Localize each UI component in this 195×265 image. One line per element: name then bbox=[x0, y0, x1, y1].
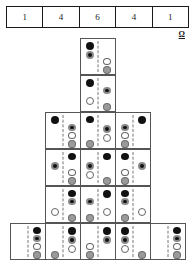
coefficient-cell-0: 1 bbox=[7, 7, 43, 27]
dot-solid bbox=[86, 116, 94, 123]
domino-tile[interactable] bbox=[80, 75, 116, 112]
tile-divider bbox=[133, 115, 134, 146]
dot-solid bbox=[86, 42, 94, 50]
dot-slot-empty bbox=[86, 132, 94, 139]
domino-tile[interactable] bbox=[80, 223, 116, 260]
domino-tile[interactable] bbox=[115, 112, 151, 149]
tile-half-left bbox=[81, 113, 98, 148]
dot-solid bbox=[68, 153, 76, 160]
dot-solid bbox=[121, 227, 129, 235]
dot-slot-empty bbox=[138, 227, 146, 234]
tile-half-left bbox=[81, 187, 98, 222]
dot-solid bbox=[68, 190, 76, 197]
domino-tile[interactable] bbox=[80, 186, 116, 223]
dot-ring bbox=[103, 125, 111, 133]
dot-gray bbox=[173, 251, 181, 258]
domino-tile[interactable] bbox=[45, 149, 81, 186]
domino-tile[interactable] bbox=[45, 223, 81, 260]
dot-solid bbox=[121, 153, 129, 160]
dot-slot-empty bbox=[138, 153, 146, 161]
dot-slot-empty bbox=[86, 227, 94, 234]
dot-open bbox=[86, 171, 94, 179]
dot-slot-empty bbox=[86, 190, 94, 197]
dot-slot-empty bbox=[51, 153, 59, 161]
tile-half-right bbox=[133, 224, 150, 259]
dot-open bbox=[173, 243, 181, 250]
dot-gray bbox=[86, 140, 94, 147]
coefficient-cell-1: 4 bbox=[43, 7, 79, 27]
domino-tile[interactable] bbox=[115, 186, 151, 223]
tile-half-right bbox=[28, 224, 45, 259]
dot-slot-empty bbox=[138, 199, 146, 207]
dot-open bbox=[121, 245, 129, 253]
dot-ring bbox=[103, 236, 111, 244]
tile-row bbox=[0, 223, 195, 260]
tile-divider bbox=[133, 189, 134, 220]
tile-half-left bbox=[116, 150, 133, 185]
domino-tile[interactable] bbox=[115, 223, 151, 260]
dot-slot-empty bbox=[51, 199, 59, 207]
domino-tile[interactable] bbox=[80, 112, 116, 149]
dot-ring bbox=[86, 198, 94, 206]
domino-tile[interactable] bbox=[80, 38, 116, 75]
dot-slot-empty bbox=[121, 161, 129, 168]
dot-gray bbox=[121, 140, 129, 147]
tile-half-right bbox=[133, 113, 150, 148]
dot-slot-empty bbox=[103, 79, 111, 86]
dot-slot-empty bbox=[103, 199, 111, 207]
dot-open bbox=[138, 208, 146, 216]
tile-divider bbox=[98, 189, 99, 220]
tile-half-right bbox=[63, 150, 80, 185]
tile-half-left bbox=[116, 224, 133, 259]
dot-open bbox=[86, 243, 94, 250]
dot-ring bbox=[51, 162, 59, 170]
tile-half-right bbox=[133, 150, 150, 185]
dot-ring bbox=[121, 198, 129, 206]
dot-slot-empty bbox=[103, 95, 111, 102]
dot-gray bbox=[33, 251, 41, 258]
dot-slot-empty bbox=[68, 116, 76, 123]
dot-slot-empty bbox=[51, 227, 59, 234]
domino-tile[interactable] bbox=[10, 223, 46, 260]
dot-solid bbox=[103, 153, 111, 160]
dot-open bbox=[103, 58, 111, 65]
dot-gray bbox=[121, 214, 129, 221]
tile-half-right bbox=[98, 224, 115, 259]
dot-gray bbox=[86, 214, 94, 221]
tile-row bbox=[0, 186, 195, 223]
tile-divider bbox=[98, 78, 99, 109]
tile-half-right bbox=[98, 150, 115, 185]
dot-solid bbox=[173, 227, 181, 234]
tile-half-left bbox=[81, 224, 98, 259]
tile-half-left bbox=[46, 150, 63, 185]
tile-divider bbox=[133, 152, 134, 183]
binomial-coefficient-table: 1 4 6 4 1 bbox=[6, 6, 189, 28]
dot-ring bbox=[103, 87, 111, 95]
tile-half-left bbox=[11, 224, 28, 259]
domino-tile[interactable] bbox=[45, 112, 81, 149]
domino-tile[interactable] bbox=[80, 149, 116, 186]
dot-open bbox=[68, 245, 76, 253]
dot-ring bbox=[121, 124, 129, 132]
dot-slot-empty bbox=[51, 235, 59, 242]
dot-slot-empty bbox=[121, 116, 129, 123]
tile-divider bbox=[63, 226, 64, 257]
tile-half-left bbox=[46, 113, 63, 148]
dot-slot-empty bbox=[51, 243, 59, 250]
dot-slot-empty bbox=[138, 235, 146, 242]
domino-tile[interactable] bbox=[45, 186, 81, 223]
tile-half-right bbox=[63, 187, 80, 222]
tile-row bbox=[0, 112, 195, 149]
coefficient-cell-2: 6 bbox=[80, 7, 116, 27]
dot-ring bbox=[68, 236, 76, 244]
tile-divider bbox=[98, 226, 99, 257]
dot-gray bbox=[121, 177, 129, 184]
dot-open bbox=[103, 134, 111, 142]
dot-gray bbox=[103, 177, 111, 184]
domino-tile[interactable] bbox=[115, 149, 151, 186]
dot-slot-empty bbox=[68, 161, 76, 168]
dot-solid bbox=[138, 116, 146, 124]
dot-open bbox=[86, 97, 94, 105]
domino-tile[interactable] bbox=[150, 223, 186, 260]
dot-slot-empty bbox=[86, 153, 94, 161]
